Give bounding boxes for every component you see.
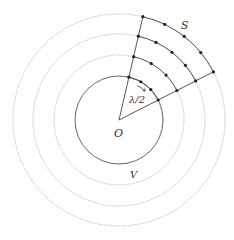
wavefront-point: [150, 62, 153, 65]
wavefront-point: [212, 70, 215, 73]
sector-arc-2: [134, 57, 177, 91]
wavefront-point: [137, 35, 140, 38]
label-inner-v: V: [130, 169, 139, 180]
huygens-sphere-diagram: O V S λ/2: [0, 0, 234, 240]
wavefront-point: [154, 41, 157, 44]
wavefront-point: [183, 35, 186, 38]
label-outer-s: S: [181, 19, 189, 32]
wavefront-point: [199, 51, 202, 54]
wavefront-point: [149, 88, 152, 91]
wavefront-point: [139, 80, 142, 83]
wavefront-point: [175, 89, 178, 92]
label-center-o: O: [114, 127, 123, 140]
wavefront-point: [194, 79, 197, 82]
wavefront-point: [132, 55, 135, 58]
wavefront-point: [157, 98, 160, 101]
wavefront-point: [141, 15, 144, 18]
wavefront-point: [170, 51, 173, 54]
wavefront-point: [127, 76, 130, 79]
lambda-half-arrow-icon: [137, 86, 145, 91]
sector-arcs: [129, 17, 214, 100]
label-lambda-half: λ/2: [128, 94, 145, 105]
sector-arc-4: [143, 17, 214, 72]
wavefront-point: [164, 74, 167, 77]
wavefront-point: [184, 64, 187, 67]
wavefront-point: [163, 23, 166, 26]
